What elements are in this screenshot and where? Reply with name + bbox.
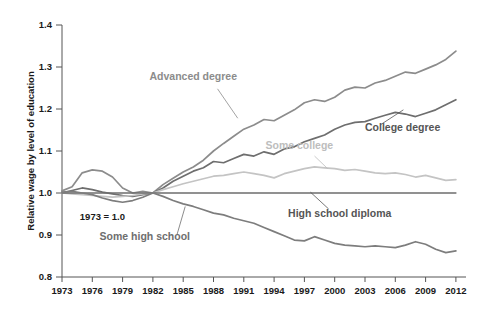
series-label-some-college: Some college (265, 139, 333, 151)
relative-wage-line-chart: 0.80.91.01.11.21.31.4 197319761979198219… (0, 0, 482, 313)
series-label-high-school-diploma: High school diploma (288, 207, 391, 219)
x-tick-label: 1994 (264, 285, 286, 296)
x-tick-label: 1973 (51, 285, 72, 296)
y-tick-label: 1.1 (39, 145, 53, 156)
x-tick-label: 1982 (142, 285, 163, 296)
data-series-group (62, 51, 456, 253)
y-tick-label: 1.2 (39, 103, 52, 114)
x-tick-label: 2012 (445, 285, 466, 296)
x-tick-label: 2006 (385, 285, 406, 296)
leader-line-advanced-degree (218, 89, 238, 118)
series-label-advanced-degree: Advanced degree (150, 70, 238, 82)
y-axis-ticks: 0.80.91.01.11.21.31.4 (39, 19, 62, 282)
x-tick-label: 1997 (294, 285, 315, 296)
series-label-college-degree: College degree (365, 121, 440, 133)
y-tick-label: 1.0 (39, 187, 52, 198)
x-tick-label: 2009 (415, 285, 436, 296)
y-tick-label: 1.4 (39, 19, 53, 30)
x-tick-label: 1991 (233, 285, 255, 296)
x-tick-label: 1985 (173, 285, 195, 296)
chart-svg: 0.80.91.01.11.21.31.4 197319761979198219… (0, 0, 482, 313)
x-tick-label: 1979 (112, 285, 133, 296)
x-axis-ticks: 1973197619791982198519881991199419972000… (51, 277, 466, 296)
y-tick-label: 0.9 (39, 229, 52, 240)
y-axis-title: Relative wage by level of education (25, 71, 36, 231)
x-tick-label: 2000 (324, 285, 345, 296)
x-tick-label: 1976 (82, 285, 103, 296)
y-tick-label: 0.8 (39, 271, 52, 282)
x-tick-label: 1988 (203, 285, 224, 296)
chart-annotations: 1973 = 1.0 (80, 211, 125, 222)
series-label-some-high-school: Some high school (100, 230, 191, 242)
x-tick-label: 2003 (354, 285, 375, 296)
series-labels: Advanced degreeCollege degreeSome colleg… (100, 70, 441, 241)
y-tick-label: 1.3 (39, 61, 52, 72)
baseline-annotation: 1973 = 1.0 (80, 211, 125, 222)
